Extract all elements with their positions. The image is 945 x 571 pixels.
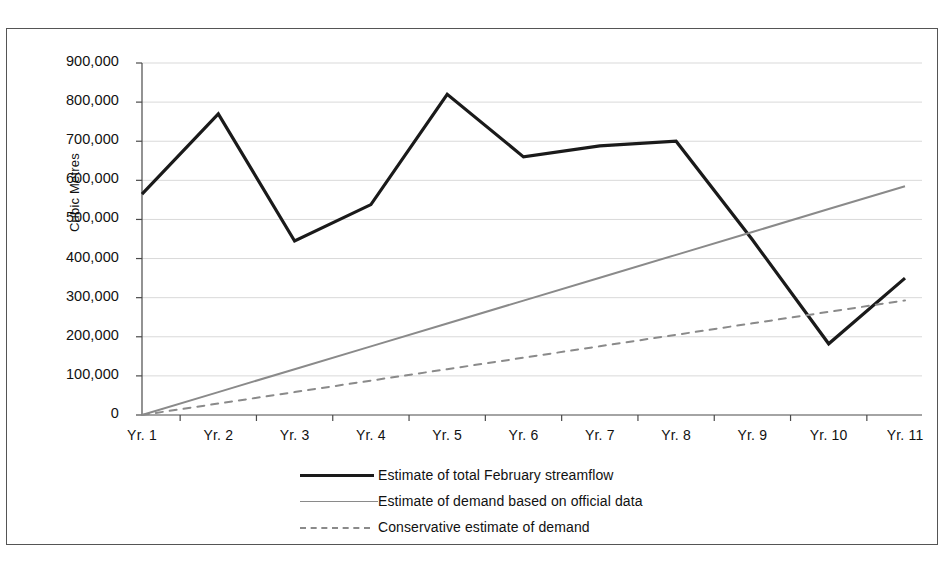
x-tick-label: Yr. 10 xyxy=(789,427,869,443)
chart-legend: Estimate of total February streamflow Es… xyxy=(296,462,716,540)
x-tick-label: Yr. 1 xyxy=(102,427,182,443)
y-tick-label: 600,000 xyxy=(9,170,119,186)
y-tick-label: 900,000 xyxy=(9,53,119,69)
x-tick-label: Yr. 8 xyxy=(636,427,716,443)
series-line-1 xyxy=(142,186,905,415)
legend-key-solid-bold-line-icon xyxy=(296,468,378,482)
y-tick-label: 700,000 xyxy=(9,131,119,147)
x-tick-label: Yr. 9 xyxy=(712,427,792,443)
x-axis-ticks xyxy=(180,415,867,421)
legend-label-streamflow: Estimate of total February streamflow xyxy=(378,467,614,483)
x-tick-label: Yr. 2 xyxy=(178,427,258,443)
y-tick-label: 0 xyxy=(9,405,119,421)
legend-item-streamflow: Estimate of total February streamflow xyxy=(296,462,716,488)
legend-label-demand-conservative: Conservative estimate of demand xyxy=(378,519,590,535)
y-axis-tick-labels: 900,000800,000700,000600,000500,000400,0… xyxy=(9,0,119,571)
axes xyxy=(142,63,922,415)
x-tick-label: Yr. 4 xyxy=(331,427,411,443)
y-tick-label: 400,000 xyxy=(9,249,119,265)
series-line-2 xyxy=(142,300,905,415)
x-tick-label: Yr. 7 xyxy=(560,427,640,443)
gridlines xyxy=(142,63,922,376)
y-axis-ticks xyxy=(136,63,142,415)
legend-key-dashed-grey-line-icon xyxy=(296,520,378,534)
legend-label-demand-official: Estimate of demand based on official dat… xyxy=(378,493,643,509)
series-lines xyxy=(142,94,905,415)
x-tick-label: Yr. 5 xyxy=(407,427,487,443)
x-tick-label: Yr. 11 xyxy=(865,427,945,443)
x-tick-label: Yr. 3 xyxy=(255,427,335,443)
y-tick-label: 300,000 xyxy=(9,288,119,304)
y-tick-label: 100,000 xyxy=(9,366,119,382)
chart-page: Cubic Metres 900,000800,000700,000600,00… xyxy=(0,0,945,571)
legend-key-solid-grey-line-icon xyxy=(296,494,378,508)
y-tick-label: 800,000 xyxy=(9,92,119,108)
legend-item-demand-official: Estimate of demand based on official dat… xyxy=(296,488,716,514)
x-tick-label: Yr. 6 xyxy=(484,427,564,443)
y-tick-label: 500,000 xyxy=(9,209,119,225)
y-tick-label: 200,000 xyxy=(9,327,119,343)
legend-item-demand-conservative: Conservative estimate of demand xyxy=(296,514,716,540)
